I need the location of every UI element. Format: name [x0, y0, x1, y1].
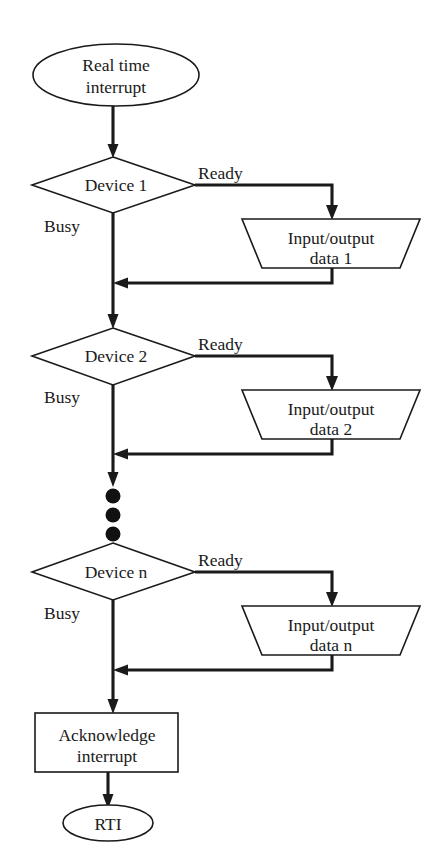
arrowhead-left-icon	[113, 278, 128, 289]
connector-return-1	[124, 268, 332, 283]
ellipsis-dot	[106, 489, 121, 504]
ready-label-2: Ready	[198, 334, 243, 354]
arrowhead-left-icon	[113, 449, 128, 460]
arrowhead-left-icon	[113, 665, 128, 676]
arrowhead-down-icon	[108, 314, 119, 329]
end-node: RTI	[63, 805, 153, 841]
arrowhead-down-icon	[326, 376, 338, 391]
busy-label-2: Busy	[44, 387, 80, 407]
ready-label-1: Ready	[198, 163, 243, 183]
acknowledge-label-line1: Acknowledge	[58, 725, 155, 745]
decision-label-n: Device n	[85, 562, 148, 582]
arrowhead-down-icon	[326, 592, 338, 607]
branch-device-n: Device n Busy Ready Input/output data n	[32, 543, 420, 714]
end-label: RTI	[94, 814, 121, 834]
vertical-ellipsis	[106, 489, 121, 542]
connector-return-2	[124, 439, 332, 454]
connector-start-to-device1	[108, 106, 119, 158]
busy-label-1: Busy	[44, 216, 80, 236]
acknowledge-label-line2: interrupt	[77, 746, 137, 766]
ellipsis-dot	[106, 508, 121, 523]
branch-device-2: Device 2 Busy Ready Input/output data 2	[32, 328, 420, 487]
ellipsis-dot	[106, 527, 121, 542]
flowchart-canvas: Real time interrupt Device 1 Busy Ready …	[0, 0, 445, 862]
busy-label-n: Busy	[44, 603, 80, 623]
acknowledge-node: Acknowledge interrupt	[35, 713, 178, 772]
branch-device-1: Device 1 Busy Ready Input/output data 1	[32, 157, 420, 329]
arrowhead-down-icon	[108, 699, 119, 714]
arrowhead-down-icon	[326, 205, 338, 220]
connector-return-n	[124, 655, 332, 670]
connector-acknowledge-to-end	[103, 772, 114, 809]
process-label-2-line1: Input/output	[288, 399, 375, 419]
arrowhead-down-icon	[108, 144, 119, 158]
connector-ready-1	[195, 185, 332, 209]
flowchart-svg: Real time interrupt Device 1 Busy Ready …	[0, 0, 445, 862]
process-label-2-line2: data 2	[310, 419, 352, 439]
start-label-line1: Real time	[82, 55, 150, 75]
arrowhead-down-icon	[108, 472, 119, 487]
process-label-n-line2: data n	[310, 635, 353, 655]
connector-ready-2	[195, 356, 332, 380]
start-label-line2: interrupt	[86, 77, 146, 97]
start-node: Real time interrupt	[33, 44, 199, 106]
decision-label-2: Device 2	[85, 346, 148, 366]
process-label-1-line1: Input/output	[288, 228, 375, 248]
ready-label-n: Ready	[198, 550, 243, 570]
process-label-n-line1: Input/output	[288, 615, 375, 635]
process-label-1-line2: data 1	[310, 248, 352, 268]
decision-label-1: Device 1	[85, 175, 148, 195]
connector-ready-n	[195, 572, 332, 596]
